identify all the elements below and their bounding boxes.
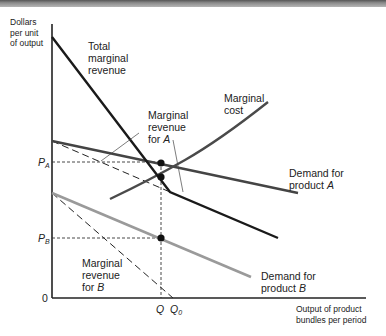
pb-point [157,234,164,241]
x-axis-label: Output of product bundles per period [296,304,366,325]
mr-a-label: Marginal revenue for A [148,109,188,145]
da-product: product [289,179,327,191]
mrb-label-line: revenue [82,269,122,281]
total-mr-label-line: marginal [88,52,128,64]
y-axis-label-line: of output [10,38,43,49]
pa-tick-label: PA [38,156,50,172]
mrb-var: B [97,281,104,293]
db-var: B [299,282,306,294]
db-label-line: Demand for [261,270,316,282]
marginal-cost-label: Marginal cost [224,92,264,116]
pa-point [157,159,164,166]
q-tick-label: Q [156,303,164,315]
mra-label-line: revenue [148,121,188,133]
mc-label-line: Marginal [224,92,264,104]
q0-main: Q [170,303,178,315]
x-axis-label-line: Output of product [296,304,366,315]
y-axis-label: Dollars per unit of output [10,17,43,49]
da-label-line: product A [289,179,344,191]
mrb-label-line: for B [82,281,122,293]
mra-leader-1 [101,133,139,161]
total-mr-label-line: Total [88,40,128,52]
total-mr-label: Total marginal revenue [88,40,128,76]
marginal-cost-curve [110,102,268,199]
mra-var: A [163,133,170,145]
pb-tick-label: PB [38,232,50,248]
da-label-line: Demand for [289,167,344,179]
db-product: product [261,282,299,294]
mc-label-line: cost [224,104,264,116]
mr-mc-point [157,173,164,180]
mra-label-line: for A [148,133,188,145]
mra-for: for [148,133,163,145]
y-axis-label-line: Dollars [10,17,43,28]
q0-sub: 0 [178,309,182,316]
pb-main: P [38,232,45,244]
mrb-label-line: Marginal [82,257,122,269]
demand-a-label: Demand for product A [289,167,344,191]
x-axis-label-line: bundles per period [296,315,366,326]
mra-label-line: Marginal [148,109,188,121]
demand-b-label: Demand for product B [261,270,316,294]
origin-label: 0 [42,292,48,304]
y-axis-label-line: per unit [10,28,43,39]
mr-a-curve [52,141,170,192]
pa-main: P [38,156,45,168]
pb-sub: B [45,238,50,245]
da-var: A [327,179,334,191]
mr-b-label: Marginal revenue for B [82,257,122,293]
db-label-line: product B [261,282,316,294]
total-mr-label-line: revenue [88,64,128,76]
mrb-for: for [82,281,97,293]
pa-sub: A [45,162,50,169]
q0-tick-label: Q0 [170,303,182,319]
